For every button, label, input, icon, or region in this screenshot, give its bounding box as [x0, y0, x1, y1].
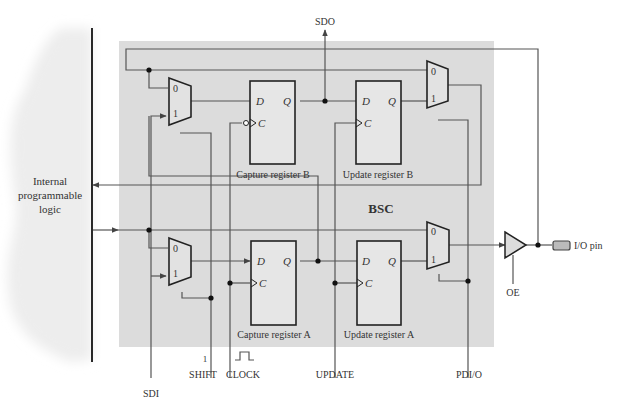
svg-text:Q: Q — [388, 255, 396, 267]
mux-out-b: 0 1 — [427, 61, 448, 108]
svg-text:0: 0 — [431, 226, 436, 237]
svg-text:1: 1 — [173, 108, 178, 119]
mux-in-b: 0 1 — [169, 78, 191, 125]
sdo-label: SDO — [315, 16, 335, 27]
sdi-label: SDI — [143, 388, 159, 399]
svg-text:Q: Q — [283, 95, 291, 107]
shift-value-label: 1 — [203, 354, 208, 364]
svg-text:Q: Q — [388, 95, 396, 107]
mux-out-a: 0 1 — [427, 222, 449, 269]
svg-text:1: 1 — [173, 268, 178, 279]
update-register-b-label: Update register B — [343, 169, 414, 180]
shift-label: SHIFT — [189, 369, 217, 380]
capture-register-b-label: Capture register B — [236, 169, 310, 180]
svg-text:C: C — [259, 277, 267, 289]
io-pin-icon — [553, 241, 570, 250]
svg-text:0: 0 — [173, 83, 178, 94]
svg-text:Q: Q — [283, 255, 291, 267]
svg-text:0: 0 — [431, 66, 436, 77]
oe-label: OE — [506, 287, 519, 298]
pdio-label: PDI/O — [456, 369, 482, 380]
svg-text:D: D — [361, 95, 370, 107]
internal-logic-label-3: logic — [39, 203, 61, 215]
update-label: UPDATE — [316, 369, 354, 380]
svg-text:C: C — [364, 117, 372, 129]
svg-text:C: C — [258, 117, 266, 129]
svg-text:1: 1 — [431, 93, 436, 104]
svg-text:0: 0 — [173, 243, 178, 254]
svg-text:D: D — [256, 255, 265, 267]
capture-register-a-label: Capture register A — [237, 329, 311, 340]
svg-text:D: D — [255, 95, 264, 107]
svg-text:C: C — [365, 277, 373, 289]
bsc-diagram: Internal programmable logic BSC — [0, 0, 618, 415]
internal-logic-label-1: Internal — [33, 175, 67, 187]
mux-in-a: 0 1 — [169, 238, 191, 285]
bsc-label: BSC — [368, 201, 393, 216]
clock-label: CLOCK — [226, 369, 261, 380]
internal-logic-label-2: programmable — [18, 189, 82, 201]
io-pin-label: I/O pin — [574, 240, 603, 251]
svg-text:1: 1 — [431, 254, 436, 265]
tristate-buffer — [505, 232, 526, 258]
svg-text:D: D — [361, 255, 370, 267]
update-register-a-label: Update register A — [344, 329, 415, 340]
